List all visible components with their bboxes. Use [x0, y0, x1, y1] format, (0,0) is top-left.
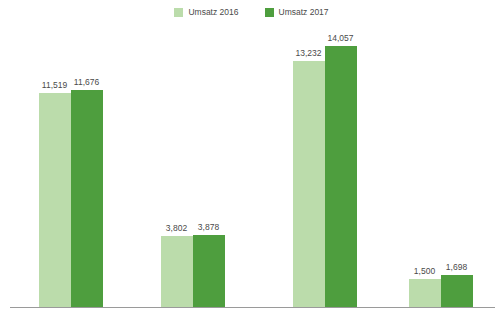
bar[interactable]: 3,878: [193, 235, 225, 307]
bar-group: 1,5001,698Sonstiges: [399, 30, 483, 307]
bar-rect: [39, 93, 71, 307]
bar-value-label: 3,878: [198, 222, 219, 232]
bar-value-label: 1,698: [446, 262, 467, 272]
bar-rect: [161, 236, 193, 307]
bar-value-label: 3,802: [166, 223, 187, 233]
bar-value-label: 1,500: [414, 266, 435, 276]
bar-group: 3,8023,878Güterverkehr: [151, 30, 235, 307]
bar-group-bars: 11,51911,676: [29, 30, 113, 307]
bar-group: 13,23214,057Spedition: [283, 30, 367, 307]
bar-group: 11,51911,676Personenverkehr: [29, 30, 113, 307]
bar-value-label: 14,057: [328, 33, 354, 43]
bar-value-label: 11,519: [42, 80, 67, 90]
bar-group-bars: 13,23214,057: [283, 30, 367, 307]
bar[interactable]: 1,698: [441, 275, 473, 307]
bar-rect: [409, 279, 441, 307]
bar[interactable]: 14,057: [325, 46, 357, 307]
bar[interactable]: 11,676: [71, 90, 103, 307]
bar-rect: [193, 235, 225, 307]
bar-rect: [293, 61, 325, 307]
bar-rect: [325, 46, 357, 307]
bar[interactable]: 13,232: [293, 61, 325, 307]
bar-chart: Umsatz 2016 Umsatz 2017 11,51911,676Pers…: [0, 0, 503, 335]
bar-value-label: 11,676: [74, 77, 99, 87]
bar-value-label: 13,232: [296, 48, 322, 58]
x-axis-line: [10, 307, 495, 308]
bar-rect: [441, 275, 473, 307]
bar-group-bars: 3,8023,878: [151, 30, 235, 307]
bar-group-bars: 1,5001,698: [399, 30, 483, 307]
bar[interactable]: 3,802: [161, 236, 193, 307]
bar-rect: [71, 90, 103, 307]
bar[interactable]: 11,519: [39, 93, 71, 307]
bar[interactable]: 1,500: [409, 279, 441, 307]
plot-area: 11,51911,676Personenverkehr3,8023,878Güt…: [0, 0, 503, 335]
